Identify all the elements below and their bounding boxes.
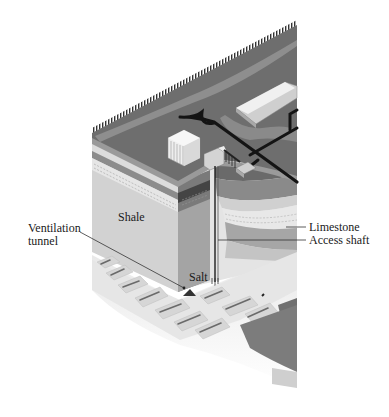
repository-diagram — [0, 0, 389, 417]
hoist-building — [168, 130, 200, 166]
ventilation-tunnel-opening — [183, 289, 196, 296]
access-shaft-label: Access shaft — [309, 234, 369, 247]
shale-label: Shale — [118, 211, 145, 224]
salt-label: Salt — [189, 271, 208, 284]
ventilation-tunnel-label: Ventilation tunnel — [28, 222, 81, 248]
ventilation-tunnel-label-line2: tunnel — [28, 235, 81, 248]
